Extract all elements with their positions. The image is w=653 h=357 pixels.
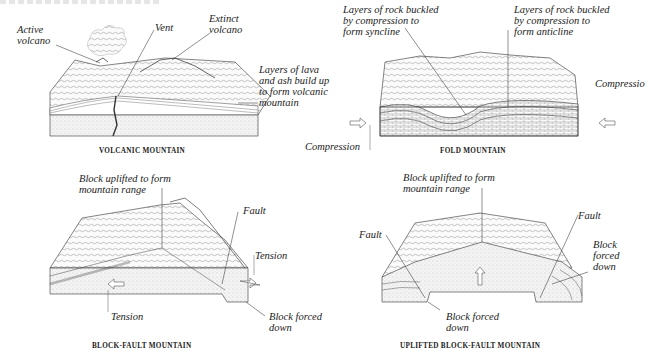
block-fault-mountain-diagram <box>50 188 265 316</box>
fold-mountain-diagram <box>350 28 615 150</box>
label-block-uplifted: Block uplifted to form mountain range <box>403 172 495 194</box>
label-block-uplifted: Block uplifted to form mountain range <box>79 173 171 195</box>
label-fault: Fault <box>243 205 266 216</box>
caption-fold-mountain: FOLD MOUNTAIN <box>440 147 506 155</box>
caption-uplifted-block-fault-mountain: UPLIFTED BLOCK-FAULT MOUNTAIN <box>400 342 540 350</box>
label-compression-right: Compressio <box>595 78 645 89</box>
label-tension-right: Tension <box>255 250 287 261</box>
label-anticline: Layers of rock buckled by compression to… <box>514 4 610 37</box>
label-block-forced-down-right: Block forced down <box>593 239 619 272</box>
label-block-forced-down-bottom: Block forced down <box>446 311 499 333</box>
caption-block-fault-mountain: BLOCK-FAULT MOUNTAIN <box>92 342 191 350</box>
caption-volcanic-mountain: VOLCANIC MOUNTAIN <box>99 147 185 155</box>
uplifted-block-fault-mountain-diagram <box>382 188 588 310</box>
label-syncline: Layers of rock buckled by compression to… <box>343 4 439 37</box>
label-compression-left: Compression <box>305 141 360 152</box>
volcanic-mountain-diagram <box>50 25 270 136</box>
label-vent: Vent <box>155 22 173 33</box>
label-block-forced-down: Block forced down <box>269 311 322 333</box>
label-fault-right: Fault <box>578 210 601 221</box>
label-extinct-volcano: Extinct volcano <box>209 13 242 35</box>
label-tension-left: Tension <box>111 311 143 322</box>
label-active-volcano: Active volcano <box>17 24 50 46</box>
label-lava-ash-layers: Layers of lava and ash build up to form … <box>259 64 329 108</box>
label-fault-left: Fault <box>359 229 382 240</box>
